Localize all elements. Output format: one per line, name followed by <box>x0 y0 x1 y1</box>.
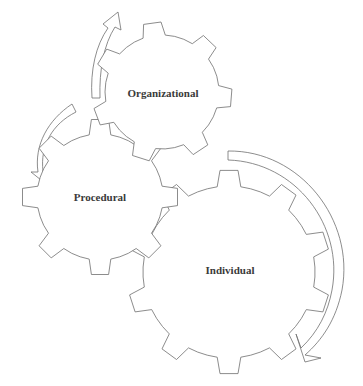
gear-layer <box>0 0 363 386</box>
gear-label-organizational: Organizational <box>128 87 199 99</box>
gear-label-individual: Individual <box>206 264 255 276</box>
gear-label-procedural: Procedural <box>74 191 126 203</box>
